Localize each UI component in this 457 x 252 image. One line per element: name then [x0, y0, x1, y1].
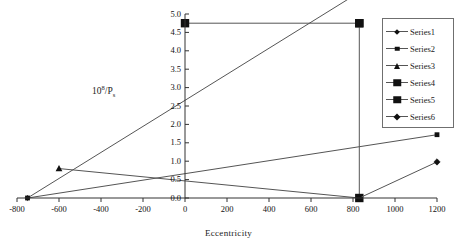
x-tick-label: 1000: [375, 204, 415, 214]
x-tick-label: 0: [165, 204, 205, 214]
x-tick-label: 800: [333, 204, 373, 214]
y-tick-label: 1.5: [151, 137, 181, 147]
legend-marker-icon: [386, 111, 408, 123]
legend-item-label: Series2: [410, 44, 435, 54]
legend-marker-icon: [386, 43, 408, 55]
legend-item[interactable]: Series4: [383, 74, 453, 91]
y-tick-label: 0.5: [151, 174, 181, 184]
y-tick-label: 1.0: [151, 156, 181, 166]
x-axis-title: Eccentricity: [0, 228, 457, 238]
legend-item-label: Series6: [410, 112, 435, 122]
legend-item[interactable]: Series3: [383, 57, 453, 74]
legend-item[interactable]: Series2: [383, 40, 453, 57]
legend: Series1 Series2 Series3 Series4 Series5: [382, 18, 454, 128]
y-tick-label: 3.5: [151, 64, 181, 74]
x-tick-label: 400: [249, 204, 289, 214]
y-tick-label: 3.0: [151, 82, 181, 92]
y-axis-title-base: 10: [92, 86, 102, 96]
legend-item-label: Series3: [410, 61, 435, 71]
x-tick-label: -200: [123, 204, 163, 214]
y-tick-label: 4.5: [151, 27, 181, 37]
legend-item[interactable]: Series5: [383, 91, 453, 108]
y-tick-label: 5.0: [151, 9, 181, 19]
legend-marker-icon: [386, 60, 408, 72]
chart-container: 108/Ps Eccentricity Series1 Series2 Seri…: [0, 0, 457, 252]
legend-item-label: Series4: [410, 78, 435, 88]
legend-item[interactable]: Series6: [383, 108, 453, 125]
x-tick-label: 1200: [417, 204, 457, 214]
x-tick-label: -800: [0, 204, 37, 214]
y-tick-label: 2.5: [151, 101, 181, 111]
legend-item[interactable]: Series1: [383, 23, 453, 40]
y-tick-label: 2.0: [151, 119, 181, 129]
legend-marker-icon: [386, 26, 408, 38]
legend-marker-icon: [386, 77, 408, 89]
x-tick-label: 200: [207, 204, 247, 214]
x-tick-label: 600: [291, 204, 331, 214]
legend-marker-icon: [386, 94, 408, 106]
x-tick-label: -600: [39, 204, 79, 214]
y-tick-label: 4.0: [151, 45, 181, 55]
legend-item-label: Series5: [410, 95, 435, 105]
y-axis-title-divider: /P: [105, 86, 113, 96]
x-tick-label: -400: [81, 204, 121, 214]
y-axis-title: 108/Ps: [92, 84, 115, 98]
y-axis-title-subscript: s: [113, 91, 116, 98]
legend-item-label: Series1: [410, 27, 435, 37]
y-tick-label: 0.0: [151, 193, 181, 203]
